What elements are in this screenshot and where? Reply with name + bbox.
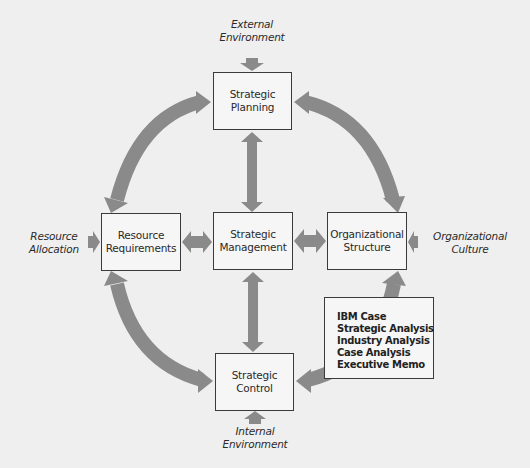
strategic-control-box: Strategic Control (215, 353, 294, 411)
organizational-culture-label: Organizational Culture (418, 230, 522, 256)
management-organizational-arrow (294, 229, 326, 253)
case-item: Executive Memo (337, 359, 433, 371)
internal-environment-label: Internal Environment (215, 425, 295, 451)
strategic-management-box: Strategic Management (213, 212, 293, 270)
resource-management-arrow (182, 231, 212, 253)
external-environment-label: External Environment (212, 18, 292, 44)
case-item: IBM Case (337, 311, 433, 323)
internal-input-arrow (244, 411, 266, 424)
management-control-arrow (242, 272, 264, 352)
planning-management-arrow (241, 132, 263, 212)
planning-resource-arc (117, 102, 200, 200)
planning-organizational-arc (305, 102, 393, 200)
resource-allocation-label: Resource Allocation (22, 230, 86, 256)
allocation-input-arrow (88, 231, 100, 253)
case-item: Strategic Analysis (337, 323, 433, 335)
resource-requirements-box: Resource Requirements (101, 213, 181, 271)
strategic-planning-box: Strategic Planning (213, 72, 292, 130)
resource-control-arc (117, 284, 202, 380)
organizational-structure-box: Organizational Structure (327, 212, 407, 270)
case-item: Case Analysis (337, 347, 433, 359)
external-input-arrow (240, 58, 264, 71)
case-item: Industry Analysis (337, 335, 433, 347)
culture-input-arrow (408, 231, 418, 253)
case-analysis-box: IBM Case Strategic Analysis Industry Ana… (324, 297, 434, 379)
